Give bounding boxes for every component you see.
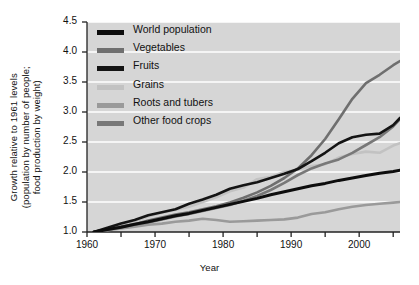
legend-label: World population: [133, 23, 212, 35]
legend-swatch: [97, 121, 124, 126]
legend-label: Vegetables: [133, 41, 185, 53]
legend-swatch: [97, 30, 124, 35]
y-tick-label: 2.0: [41, 165, 77, 176]
y-tick-label: 4.5: [41, 15, 77, 26]
y-tick-label: 4.0: [41, 45, 77, 56]
legend-label: Roots and tubers: [133, 96, 213, 108]
y-tick-label: 1.0: [41, 225, 77, 236]
x-tick-label: 1980: [198, 239, 248, 250]
legend-label: Fruits: [133, 59, 159, 71]
x-tick-label: 1990: [266, 239, 316, 250]
x-tick-label: 1960: [62, 239, 112, 250]
legend-label: Grains: [133, 78, 164, 90]
legend-swatch: [97, 103, 124, 108]
x-tick-label: 2000: [334, 239, 384, 250]
legend-swatch: [97, 48, 124, 53]
y-tick-label: 2.5: [41, 135, 77, 146]
y-tick-label: 1.5: [41, 195, 77, 206]
y-tick-label: 3.0: [41, 105, 77, 116]
chart-figure: Growth relative to 1961 levels (populati…: [0, 0, 419, 285]
y-tick-label: 3.5: [41, 75, 77, 86]
x-tick-label: 1970: [130, 239, 180, 250]
legend-swatch: [97, 66, 124, 71]
legend-swatch: [97, 85, 124, 90]
legend-label: Other food crops: [133, 114, 211, 126]
